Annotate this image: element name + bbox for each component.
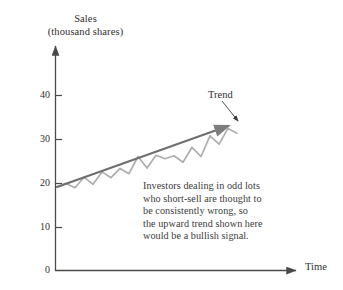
y-axis-title-line-1: Sales: [18, 12, 153, 25]
y-tick-label-30: 30: [28, 133, 50, 144]
chart-figure: Sales (thousand shares) Time 0 10 20 30 …: [0, 0, 343, 290]
series-sales-line: [57, 128, 237, 187]
y-tick-label-10: 10: [28, 221, 50, 232]
trend-callout-leader: [222, 101, 238, 121]
chart-note-line-2: who short-sell are thought to: [143, 193, 313, 206]
x-axis-title: Time: [305, 261, 327, 272]
chart-canvas: [0, 0, 343, 290]
y-axis-title: Sales (thousand shares): [18, 12, 153, 38]
chart-note-line-5: would be a bullish signal.: [143, 230, 313, 243]
chart-note-line-1: Investors dealing in odd lots: [143, 180, 313, 193]
chart-note-line-4: the upward trend shown here: [143, 218, 313, 231]
y-axis-title-line-2: (thousand shares): [18, 25, 153, 38]
series-trend-line: [57, 126, 228, 187]
y-tick-label-20: 20: [28, 177, 50, 188]
y-tick-label-0: 0: [28, 264, 50, 275]
chart-note-line-3: be consistently wrong, so: [143, 205, 313, 218]
chart-note: Investors dealing in odd lots who short-…: [143, 180, 313, 243]
y-tick-label-40: 40: [28, 89, 50, 100]
trend-callout-label: Trend: [208, 89, 233, 100]
